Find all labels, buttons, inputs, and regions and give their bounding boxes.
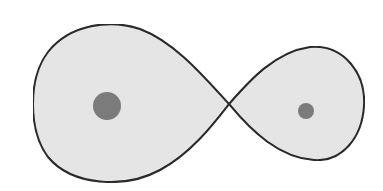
primary-mass bbox=[93, 92, 121, 120]
secondary-lobe bbox=[229, 47, 364, 160]
primary-lobe bbox=[33, 24, 229, 182]
diagram-svg bbox=[0, 0, 383, 191]
roche-lobe-diagram bbox=[0, 0, 383, 191]
secondary-mass bbox=[298, 103, 314, 119]
